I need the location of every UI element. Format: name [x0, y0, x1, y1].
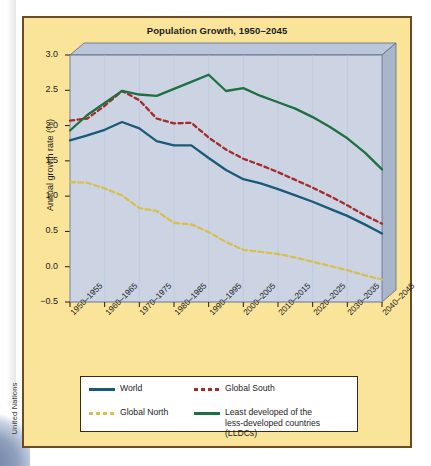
legend-item-lldcs[interactable]: Least developed of theless-developed cou…	[194, 407, 353, 439]
legend-label-global-south: Global South	[225, 383, 275, 394]
chart-legend: World Global South Global North Least de…	[80, 376, 358, 432]
y-tick-5: 0.5	[32, 225, 58, 235]
legend-label-global-north: Global North	[120, 407, 168, 418]
legend-item-global-south[interactable]: Global South	[194, 383, 353, 407]
legend-item-world[interactable]: World	[89, 383, 194, 407]
y-tick-0: 3.0	[32, 49, 58, 59]
legend-label-lldcs-line2: less-developed countries (LLDCs)	[225, 418, 320, 439]
legend-swatch-global-south	[194, 384, 220, 395]
legend-swatch-lldcs	[194, 408, 220, 419]
y-tick-7: −0.5	[32, 296, 58, 306]
legend-swatch-global-north	[89, 408, 115, 419]
legend-swatch-world	[89, 384, 115, 395]
source-credit: United Nations	[10, 377, 19, 441]
y-tick-3: 1.5	[32, 155, 58, 165]
y-tick-1: 2.5	[32, 84, 58, 94]
legend-label-world: World	[120, 383, 142, 394]
y-axis-label: Annual growth rate (%)	[45, 95, 55, 235]
y-tick-4: 1.0	[32, 190, 58, 200]
figure-panel: Population Growth, 1950–2045 Annual grow…	[22, 16, 412, 448]
legend-item-global-north[interactable]: Global North	[89, 407, 194, 439]
legend-label-lldcs: Least developed of theless-developed cou…	[225, 407, 353, 439]
y-tick-6: 0.0	[32, 261, 58, 271]
legend-label-lldcs-line1: Least developed of the	[225, 407, 312, 417]
y-tick-2: 2.0	[32, 120, 58, 130]
